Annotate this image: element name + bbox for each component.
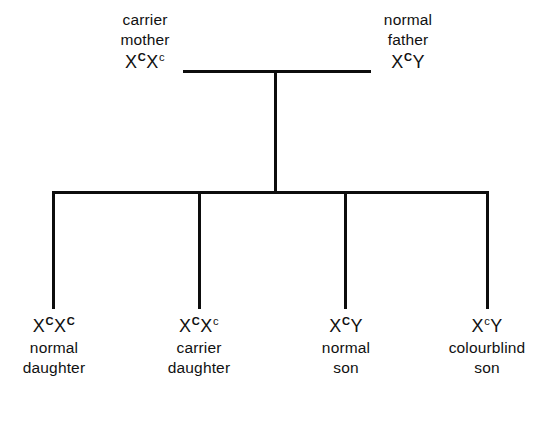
child2-allele1-superscript: C: [192, 315, 200, 327]
child3-label-line1: normal: [292, 338, 400, 358]
child1-genotype: XCXC: [0, 315, 108, 338]
mother-label-line2: mother: [85, 30, 205, 50]
mother-allele1-symbol: X: [125, 52, 137, 72]
pedigree-diagram: carrier mother XCXc normal father XCY XC…: [0, 0, 550, 430]
father-allele1-symbol: X: [391, 52, 403, 72]
child2-label-line2: daughter: [145, 358, 253, 378]
mother-allele1-superscript: C: [138, 51, 146, 63]
drop-line-child2: [198, 191, 201, 309]
child2-allele2-symbol: X: [200, 316, 212, 336]
child4-allele2-symbol: Y: [490, 316, 502, 336]
child2-allele2-superscript: c: [213, 315, 219, 327]
father-label-line2: father: [348, 30, 468, 50]
descent-line: [274, 70, 277, 194]
child2-label-line1: carrier: [145, 338, 253, 358]
child4-allele1-symbol: X: [471, 316, 483, 336]
child1-label-line2: daughter: [0, 358, 108, 378]
child1-label-line1: normal: [0, 338, 108, 358]
mother-label-line1: carrier: [85, 10, 205, 30]
child1-allele1-symbol: X: [33, 316, 45, 336]
mother-allele2-superscript: c: [159, 51, 165, 63]
sibship-line: [52, 191, 489, 194]
marriage-line: [183, 70, 371, 73]
child-node-4: XcY colourblind son: [432, 314, 542, 378]
child2-genotype: XCXc: [145, 315, 253, 338]
drop-line-child3: [344, 191, 347, 309]
child1-allele1-superscript: C: [45, 315, 53, 327]
drop-line-child1: [52, 191, 55, 309]
mother-allele2-symbol: X: [146, 52, 158, 72]
child3-label-line2: son: [292, 358, 400, 378]
child3-genotype: XCY: [292, 315, 400, 338]
father-label-line1: normal: [348, 10, 468, 30]
parent-node-father: normal father XCY: [348, 10, 468, 74]
father-allele2-symbol: Y: [412, 52, 424, 72]
child-node-2: XCXc carrier daughter: [145, 314, 253, 378]
child4-label-line1: colourblind: [432, 338, 542, 358]
drop-line-child4: [486, 191, 489, 309]
child-node-3: XCY normal son: [292, 314, 400, 378]
child2-allele1-symbol: X: [179, 316, 191, 336]
child1-allele2-symbol: X: [54, 316, 66, 336]
child3-allele1-symbol: X: [329, 316, 341, 336]
child4-label-line2: son: [432, 358, 542, 378]
parent-node-mother: carrier mother XCXc: [85, 10, 205, 74]
child-node-1: XCXC normal daughter: [0, 314, 108, 378]
child1-allele2-superscript: C: [67, 315, 75, 327]
child3-allele2-symbol: Y: [350, 316, 362, 336]
child4-genotype: XcY: [432, 315, 542, 338]
